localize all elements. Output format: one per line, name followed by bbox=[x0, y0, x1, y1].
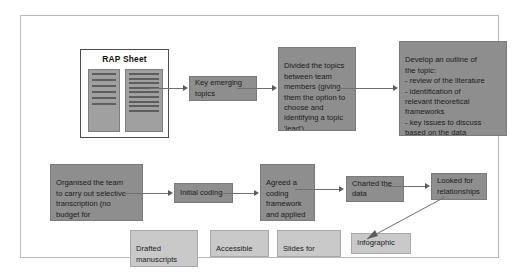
rap-text-line bbox=[92, 73, 116, 75]
rap-sheet-left-page bbox=[88, 69, 120, 132]
node-label: Organised the team to carry out selectiv… bbox=[56, 178, 126, 221]
rap-sheet-document: RAP Sheet bbox=[80, 49, 169, 138]
node-drafted-manuscripts[interactable]: Drafted manuscripts for publication bbox=[130, 230, 198, 267]
rap-sheet-right-page bbox=[125, 69, 163, 132]
arrowhead-agreed-to-charted bbox=[339, 186, 344, 192]
connector-charted-to-looked bbox=[384, 186, 426, 187]
rap-text-line bbox=[92, 79, 116, 81]
arrowhead-organised-to-initial bbox=[168, 190, 173, 196]
node-agreed-framework[interactable]: Agreed a coding framework and applied it… bbox=[260, 164, 315, 221]
rap-text-line bbox=[129, 110, 159, 112]
rap-text-line bbox=[92, 103, 116, 105]
connector-looked-to-infographic bbox=[351, 194, 451, 249]
arrowhead-rap-to-key bbox=[183, 85, 188, 91]
node-divided-topics[interactable]: Divided the topics between team members … bbox=[278, 47, 356, 131]
connector-divided-to-develop bbox=[336, 88, 394, 89]
connector-agreed-to-charted bbox=[295, 189, 340, 190]
connector-organised-to-initial bbox=[123, 193, 169, 194]
connector-initial-to-agreed bbox=[213, 193, 255, 194]
arrowhead-key-to-divided bbox=[272, 85, 277, 91]
node-label: Key emerging topics bbox=[195, 78, 242, 99]
node-label: Develop an outline of the topic: - revie… bbox=[405, 55, 485, 136]
connector-rap-to-key bbox=[149, 88, 184, 89]
node-label: Slides for presentations bbox=[283, 244, 329, 257]
node-label: Accessible summaries bbox=[216, 244, 253, 257]
node-label: Drafted manuscripts for publication bbox=[136, 244, 184, 267]
rap-text-line bbox=[129, 82, 159, 84]
rap-text-line bbox=[129, 91, 159, 93]
rap-text-line bbox=[129, 105, 159, 107]
connector-key-to-divided bbox=[237, 88, 273, 89]
arrowhead-divided-to-develop bbox=[393, 85, 398, 91]
arrowhead-initial-to-agreed bbox=[254, 190, 259, 196]
rap-text-line bbox=[129, 78, 159, 80]
rap-text-line bbox=[92, 97, 116, 99]
node-label: Divided the topics between team members … bbox=[284, 61, 345, 131]
rap-text-line bbox=[129, 96, 159, 98]
flowchart-screenshot: RAP Sheet Key e bbox=[0, 0, 516, 273]
arrowhead-charted-to-looked bbox=[425, 183, 430, 189]
diagram-frame: RAP Sheet Key e bbox=[20, 15, 499, 258]
rap-text-line bbox=[129, 101, 159, 103]
node-develop-outline[interactable]: Develop an outline of the topic: - revie… bbox=[399, 41, 507, 136]
node-accessible-summaries[interactable]: Accessible summaries bbox=[210, 230, 269, 257]
rap-text-line bbox=[92, 91, 116, 93]
rap-text-line bbox=[92, 85, 116, 87]
node-slides-presentations[interactable]: Slides for presentations bbox=[277, 230, 341, 257]
node-label: Agreed a coding framework and applied it… bbox=[266, 178, 308, 221]
rap-text-line bbox=[129, 73, 159, 75]
rap-sheet-title: RAP Sheet bbox=[81, 54, 168, 64]
